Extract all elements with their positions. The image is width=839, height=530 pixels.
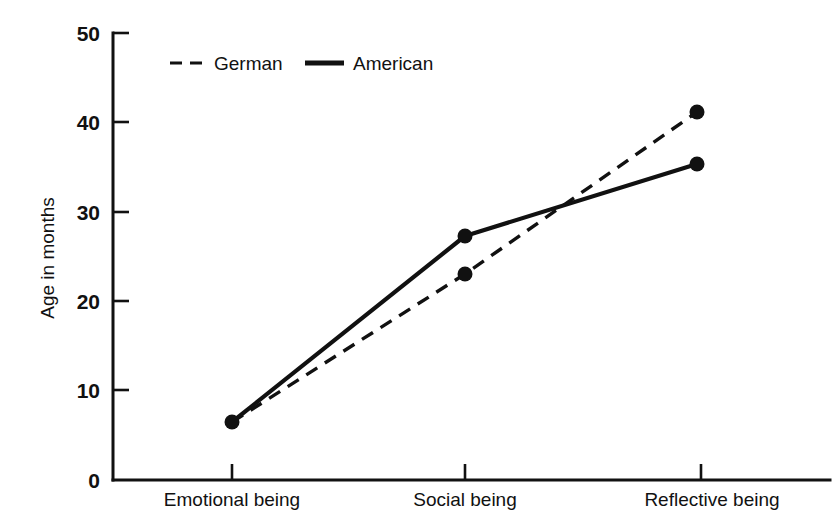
y-tick-label-30: 30 bbox=[77, 201, 100, 224]
y-tick-label-50: 50 bbox=[77, 22, 100, 45]
data-point-german-social-being bbox=[458, 267, 473, 282]
x-tick-label-reflective-being: Reflective being bbox=[644, 489, 779, 510]
x-tick-label-emotional-being: Emotional being bbox=[164, 489, 300, 510]
y-tick-label-0: 0 bbox=[88, 469, 100, 492]
y-axis-title: Age in months bbox=[37, 197, 58, 318]
x-tick-label-social-being: Social being bbox=[413, 489, 517, 510]
series-line-american bbox=[232, 164, 697, 422]
data-point-american-reflective-being bbox=[690, 157, 705, 172]
y-tick-label-40: 40 bbox=[77, 111, 100, 134]
chart-container: 50 40 30 20 10 0 Age in months Emotional… bbox=[0, 0, 839, 530]
legend-label-german: German bbox=[214, 53, 283, 74]
chart-legend: German American bbox=[170, 53, 433, 74]
line-chart: 50 40 30 20 10 0 Age in months Emotional… bbox=[0, 0, 839, 530]
data-point-shared-emotional-being bbox=[225, 415, 240, 430]
y-tick-label-10: 10 bbox=[77, 379, 100, 402]
data-point-german-reflective-being bbox=[690, 105, 705, 120]
data-point-american-social-being bbox=[458, 229, 473, 244]
legend-label-american: American bbox=[353, 53, 433, 74]
y-tick-label-20: 20 bbox=[77, 290, 100, 313]
